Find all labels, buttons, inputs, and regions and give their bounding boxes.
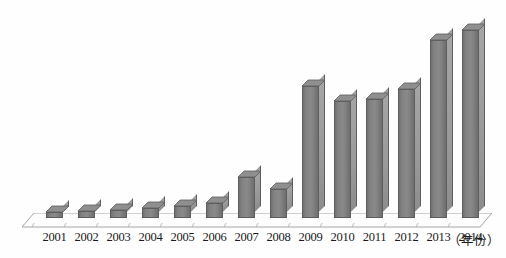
bar-2002 bbox=[78, 205, 95, 218]
x-tick-label-2008: 2008 bbox=[263, 230, 295, 245]
bar-front-face bbox=[302, 86, 319, 218]
x-tick-label-2011: 2011 bbox=[359, 230, 391, 245]
bar-chart-figure: （年份） 20012002200320042005200620072008200… bbox=[0, 0, 506, 258]
x-tick-label-2014: 2014 bbox=[455, 230, 487, 245]
x-tick-label-2004: 2004 bbox=[135, 230, 167, 245]
bar-side-face bbox=[479, 18, 485, 212]
bar-front-face bbox=[462, 30, 479, 218]
bar-2003 bbox=[110, 204, 127, 218]
x-tick-label-2012: 2012 bbox=[391, 230, 423, 245]
bar-2001 bbox=[46, 206, 63, 218]
x-tick-label-2009: 2009 bbox=[295, 230, 327, 245]
bar-2004 bbox=[142, 202, 159, 218]
bar-2007 bbox=[238, 171, 255, 218]
x-tick-label-2006: 2006 bbox=[199, 230, 231, 245]
bar-front-face bbox=[46, 212, 63, 218]
bar-front-face bbox=[142, 208, 159, 218]
bar-front-face bbox=[110, 210, 127, 218]
bar-front-face bbox=[366, 99, 383, 218]
bar-front-face bbox=[206, 203, 223, 218]
bar-front-face bbox=[430, 40, 447, 218]
bar-2012 bbox=[398, 83, 415, 218]
x-tick-label-2002: 2002 bbox=[71, 230, 103, 245]
x-tick-label-2007: 2007 bbox=[231, 230, 263, 245]
bar-side-face bbox=[447, 28, 453, 212]
bars-container bbox=[0, 0, 506, 258]
bar-front-face bbox=[78, 211, 95, 218]
bar-front-face bbox=[174, 206, 191, 218]
bar-side-face bbox=[319, 74, 325, 212]
bar-front-face bbox=[398, 89, 415, 218]
x-tick-label-2001: 2001 bbox=[39, 230, 71, 245]
bar-front-face bbox=[334, 101, 351, 218]
x-tick-label-2013: 2013 bbox=[423, 230, 455, 245]
bar-2014 bbox=[462, 24, 479, 218]
x-tick-label-2003: 2003 bbox=[103, 230, 135, 245]
bar-side-face bbox=[383, 87, 389, 212]
bar-2010 bbox=[334, 95, 351, 218]
bar-2013 bbox=[430, 34, 447, 218]
bar-side-face bbox=[415, 77, 421, 212]
bar-2008 bbox=[270, 183, 287, 218]
bar-side-face bbox=[351, 89, 357, 212]
bar-2011 bbox=[366, 93, 383, 218]
bar-front-face bbox=[238, 177, 255, 218]
bar-2009 bbox=[302, 80, 319, 218]
bar-2006 bbox=[206, 197, 223, 218]
bar-2005 bbox=[174, 200, 191, 218]
x-axis-labels: （年份） 20012002200320042005200620072008200… bbox=[0, 230, 506, 252]
x-tick-label-2005: 2005 bbox=[167, 230, 199, 245]
bar-front-face bbox=[270, 189, 287, 218]
x-tick-label-2010: 2010 bbox=[327, 230, 359, 245]
